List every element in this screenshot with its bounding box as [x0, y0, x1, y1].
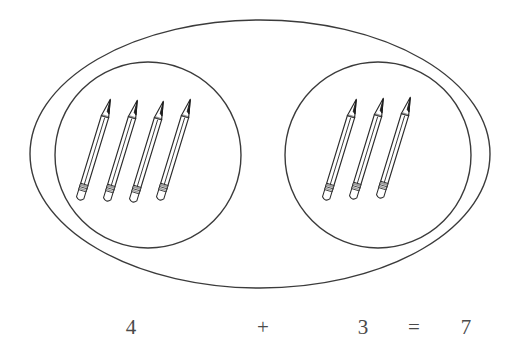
equation-term-plus-operator: + [257, 315, 269, 339]
outer-set-oval [30, 20, 490, 288]
equation-row: 4 + 3 = 7 [126, 315, 472, 339]
left-pencil-group [76, 98, 194, 203]
equation-term-addend-1: 4 [126, 315, 137, 339]
equation-term-sum: 7 [461, 315, 472, 339]
equation-term-equals-operator: = [408, 315, 420, 339]
equation-term-addend-2: 3 [358, 315, 369, 339]
right-pencil-group [322, 96, 414, 201]
diagram-canvas: 4 + 3 = 7 [0, 0, 514, 360]
right-group-circle [285, 62, 471, 248]
addition-set-diagram: 4 + 3 = 7 [0, 0, 514, 360]
